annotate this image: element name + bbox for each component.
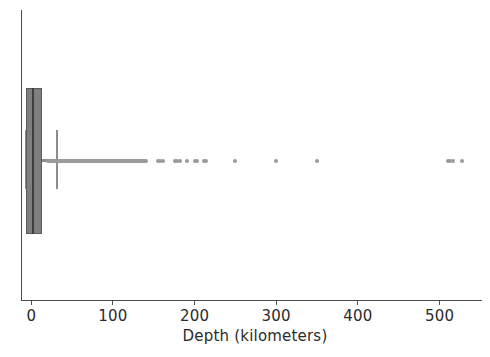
outlier-point (195, 159, 199, 163)
outlier-point (315, 159, 319, 163)
outlier-point (451, 159, 455, 163)
x-tick-label-100: 100 (98, 307, 127, 325)
x-tick-400 (357, 301, 358, 305)
boxplot-figure: 0100200300400500 Depth (kilometers) (0, 0, 490, 357)
outlier-point (460, 159, 464, 163)
x-tick-0 (31, 301, 32, 305)
x-tick-500 (439, 301, 440, 305)
outlier-point (204, 159, 208, 163)
x-tick-label-200: 200 (180, 307, 209, 325)
x-tick-label-400: 400 (343, 307, 372, 325)
x-tick-label-0: 0 (26, 307, 36, 325)
box-iqr (26, 88, 42, 234)
x-tick-label-300: 300 (262, 307, 291, 325)
outlier-point (161, 159, 165, 163)
median-line (32, 88, 34, 234)
x-tick-300 (276, 301, 277, 305)
outlier-point (144, 159, 148, 163)
outlier-point (274, 159, 278, 163)
outlier-point (178, 159, 182, 163)
x-axis-label: Depth (kilometers) (0, 327, 490, 345)
x-tick-label-500: 500 (425, 307, 454, 325)
x-tick-200 (194, 301, 195, 305)
outlier-point (233, 159, 237, 163)
outlier-point (185, 159, 189, 163)
x-tick-100 (112, 301, 113, 305)
plot-area (0, 0, 490, 357)
